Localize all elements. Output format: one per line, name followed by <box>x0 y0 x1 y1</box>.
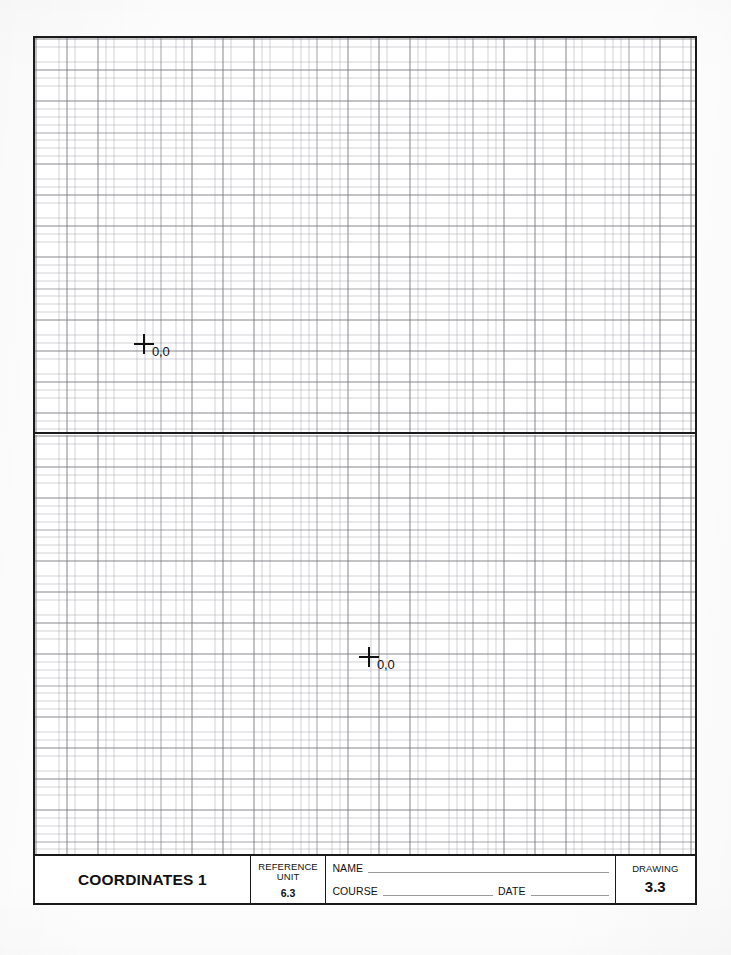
title-block-drawing-number-cell: DRAWING 3.3 <box>616 856 695 903</box>
lower-coordinate-plane-grid[interactable] <box>35 435 695 856</box>
origin-label-lower: 0,0 <box>377 657 394 672</box>
date-input-line[interactable] <box>531 886 609 896</box>
drawing-frame-border: 0,0 0,0 COORDINATES 1 REFERENCE UNIT 6.3 <box>33 36 697 905</box>
name-input-line[interactable] <box>368 863 608 873</box>
title-block-fields-cell: NAME COURSE DATE <box>326 856 615 903</box>
plane-divider-line <box>35 432 695 434</box>
upper-coordinate-plane-grid[interactable] <box>35 38 695 433</box>
graph-region[interactable]: 0,0 0,0 <box>35 38 695 856</box>
drawing-number-value: 3.3 <box>645 878 666 895</box>
title-block: COORDINATES 1 REFERENCE UNIT 6.3 NAME CO… <box>35 854 695 903</box>
origin-label-upper: 0,0 <box>152 344 169 359</box>
date-field-label: DATE <box>498 885 526 897</box>
title-block-sheet-title-cell: COORDINATES 1 <box>35 856 251 903</box>
worksheet-page: 0,0 0,0 COORDINATES 1 REFERENCE UNIT 6.3 <box>0 0 731 955</box>
course-input-line[interactable] <box>383 886 493 896</box>
reference-unit-label-line2: UNIT <box>277 872 300 883</box>
sheet-title-text: COORDINATES 1 <box>78 871 207 889</box>
crosshair-vertical-icon <box>143 334 145 354</box>
course-field-label: COURSE <box>332 885 378 897</box>
drawing-label: DRAWING <box>632 864 678 875</box>
title-block-reference-unit-cell: REFERENCE UNIT 6.3 <box>251 856 327 903</box>
name-field-label: NAME <box>332 862 363 874</box>
course-date-field-row: COURSE DATE <box>326 880 614 904</box>
name-field-row: NAME <box>326 856 614 880</box>
crosshair-vertical-icon <box>368 647 370 667</box>
reference-unit-value: 6.3 <box>281 887 296 899</box>
